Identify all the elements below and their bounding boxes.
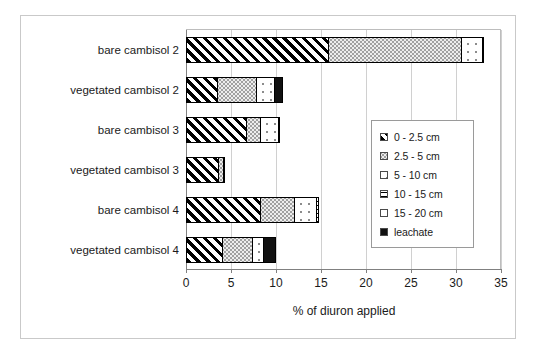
bar-segment (328, 37, 461, 63)
bar-segment (252, 237, 264, 263)
category-label: vegetated cambisol 3 (70, 150, 186, 190)
bar-segment (222, 237, 252, 263)
bar-segment (482, 37, 484, 63)
gridline-5 (231, 30, 232, 269)
stacked-bar (186, 37, 484, 63)
bar-segment (278, 117, 280, 143)
x-tick-label: 0 (183, 276, 190, 290)
gridline-0 (186, 30, 187, 269)
bar-segment (186, 157, 218, 183)
x-tick (411, 269, 412, 273)
category-label: vegetated cambisol 4 (70, 230, 186, 270)
legend-swatch-icon (380, 228, 388, 236)
gridline-35 (501, 30, 502, 269)
bar-segment (294, 197, 317, 223)
x-tick-label: 35 (494, 276, 507, 290)
gridline-15 (321, 30, 322, 269)
bar-segment (186, 37, 328, 63)
bar-segment (461, 37, 482, 63)
legend-label: 10 - 15 cm (394, 188, 443, 200)
x-tick-label: 30 (449, 276, 462, 290)
legend-label: 5 - 10 cm (394, 169, 437, 181)
x-axis-title: % of diuron applied (186, 304, 502, 318)
chart-figure: bare cambisol 2vegetated cambisol 2bare … (20, 15, 516, 339)
stacked-bar (186, 237, 276, 263)
stacked-bar (186, 117, 280, 143)
bar-segment (217, 77, 257, 103)
gridline-20 (366, 30, 367, 269)
x-tick (501, 269, 502, 273)
x-tick (186, 269, 187, 273)
bar-segment (260, 117, 278, 143)
legend-swatch-icon (380, 152, 388, 160)
category-label: bare cambisol 2 (98, 30, 186, 70)
x-axis: 05101520253035 (186, 269, 502, 270)
gridline-10 (276, 30, 277, 269)
legend-label: 2.5 - 5 cm (394, 150, 440, 162)
bar-segment (260, 197, 294, 223)
legend-label: 0 - 2.5 cm (394, 131, 440, 143)
legend-item[interactable]: 2.5 - 5 cm (380, 146, 466, 165)
stacked-bar (186, 77, 283, 103)
bar-segment (316, 197, 319, 223)
x-tick (231, 269, 232, 273)
bar-segment (246, 117, 259, 143)
category-label: bare cambisol 3 (98, 110, 186, 150)
x-tick-label: 10 (269, 276, 282, 290)
legend-swatch-icon (380, 171, 388, 179)
category-label: vegetated cambisol 2 (70, 70, 186, 110)
bar-segment (263, 237, 276, 263)
chart-legend: 0 - 2.5 cm2.5 - 5 cm5 - 10 cm10 - 15 cm1… (371, 120, 474, 248)
bar-segment (223, 157, 225, 183)
bar-segment (186, 237, 222, 263)
x-tick (276, 269, 277, 273)
legend-item[interactable]: 10 - 15 cm (380, 184, 466, 203)
stacked-bar (186, 197, 319, 223)
bar-segment (274, 77, 283, 103)
legend-swatch-icon (380, 133, 388, 141)
legend-item[interactable]: 15 - 20 cm (380, 203, 466, 222)
category-label: bare cambisol 4 (98, 190, 186, 230)
x-tick (366, 269, 367, 273)
stacked-bar (186, 157, 225, 183)
legend-swatch-icon (380, 190, 388, 198)
x-tick-label: 5 (228, 276, 235, 290)
legend-label: leachate (394, 226, 433, 238)
x-tick-label: 15 (314, 276, 327, 290)
legend-label: 15 - 20 cm (394, 207, 443, 219)
x-tick-label: 20 (359, 276, 372, 290)
legend-item[interactable]: leachate (380, 222, 466, 241)
x-tick-label: 25 (404, 276, 417, 290)
legend-item[interactable]: 5 - 10 cm (380, 165, 466, 184)
bar-segment (186, 77, 217, 103)
legend-item[interactable]: 0 - 2.5 cm (380, 127, 466, 146)
bar-segment (256, 77, 274, 103)
bar-segment (186, 117, 246, 143)
bar-segment (186, 197, 260, 223)
x-tick (456, 269, 457, 273)
x-tick (321, 269, 322, 273)
legend-swatch-icon (380, 209, 388, 217)
